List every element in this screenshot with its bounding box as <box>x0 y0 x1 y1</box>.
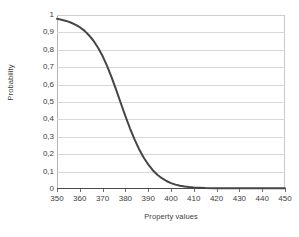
y-axis-title: Probability <box>6 51 15 115</box>
y-tick-label: 0,1 <box>18 168 54 176</box>
y-axis-tick-labels: 00,10,20,30,40,50,60,70,80,91 <box>18 12 54 189</box>
x-tick-mark <box>57 189 58 192</box>
y-tick-label: 0 <box>18 185 54 193</box>
x-tick-mark <box>194 189 195 192</box>
x-tick-mark <box>171 189 172 192</box>
x-tick-mark <box>148 189 149 192</box>
y-tick-label: 0,5 <box>18 98 54 106</box>
x-axis-title: Property values <box>57 212 285 221</box>
x-tick-mark <box>239 189 240 192</box>
x-tick-mark <box>285 189 286 192</box>
x-tick-mark <box>217 189 218 192</box>
y-tick-label: 0,2 <box>18 150 54 158</box>
y-tick-label: 0,9 <box>18 28 54 36</box>
x-tick-mark <box>125 189 126 192</box>
chart-container: Probability 00,10,20,30,40,50,60,70,80,9… <box>0 0 299 237</box>
x-tick-label: 450 <box>270 194 299 203</box>
y-tick-label: 0,4 <box>18 115 54 123</box>
y-tick-label: 0,3 <box>18 133 54 141</box>
y-tick-label: 0,7 <box>18 63 54 71</box>
x-tick-mark <box>80 189 81 192</box>
data-series-line <box>57 15 285 189</box>
y-tick-label: 0,6 <box>18 81 54 89</box>
x-tick-mark <box>262 189 263 192</box>
plot-area <box>57 15 285 189</box>
y-tick-label: 0,8 <box>18 46 54 54</box>
y-tick-label: 1 <box>18 11 54 19</box>
x-tick-mark <box>103 189 104 192</box>
